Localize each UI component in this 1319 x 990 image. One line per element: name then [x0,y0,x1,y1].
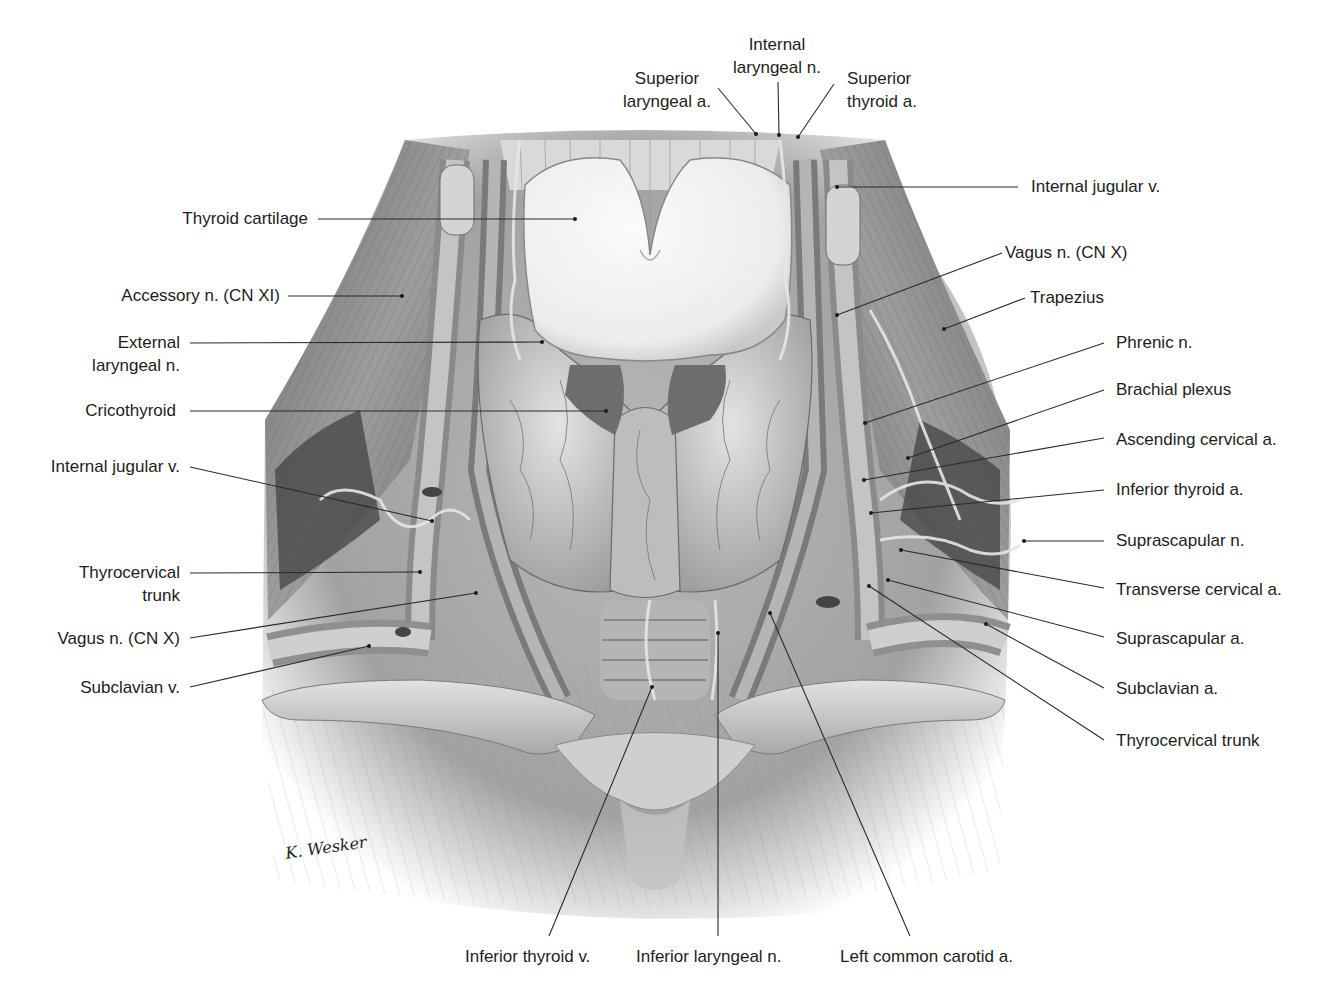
label-left-common-carotid-artery: Left common carotid a. [840,945,1013,968]
label-subclavian-vein: Subclavian v. [40,676,180,699]
label-thyroid-cartilage: Thyroid cartilage [100,207,308,230]
label-superior-thyroid-artery: Superior thyroid a. [847,67,917,113]
label-suprascapular-artery: Suprascapular a. [1116,627,1245,650]
label-vagus-nerve-left: Vagus n. (CN X) [20,627,180,650]
label-internal-laryngeal-nerve: Internal laryngeal n. [722,33,832,79]
label-inferior-thyroid-vein: Inferior thyroid v. [465,945,590,968]
label-superior-laryngeal-artery: Superior laryngeal a. [612,67,722,113]
label-accessory-nerve: Accessory n. (CN XI) [60,284,280,307]
label-transverse-cervical-artery: Transverse cervical a. [1116,578,1282,601]
label-thyrocervical-trunk-left: Thyrocervical trunk [40,561,180,607]
label-internal-jugular-vein-left: Internal jugular v. [0,455,180,478]
label-vagus-nerve-right: Vagus n. (CN X) [1005,241,1128,264]
label-ascending-cervical-artery: Ascending cervical a. [1116,428,1277,451]
label-subclavian-artery: Subclavian a. [1116,677,1218,700]
label-trapezius: Trapezius [1030,286,1104,309]
label-brachial-plexus: Brachial plexus [1116,378,1231,401]
label-external-laryngeal-nerve: External laryngeal n. [40,331,180,377]
label-cricothyroid: Cricothyroid [40,399,176,422]
label-inferior-laryngeal-nerve: Inferior laryngeal n. [636,945,782,968]
label-internal-jugular-vein-right: Internal jugular v. [1031,175,1160,198]
label-phrenic-nerve: Phrenic n. [1116,331,1193,354]
label-thyrocervical-trunk-right: Thyrocervical trunk [1116,729,1260,752]
label-inferior-thyroid-artery: Inferior thyroid a. [1116,478,1244,501]
label-suprascapular-nerve: Suprascapular n. [1116,529,1245,552]
